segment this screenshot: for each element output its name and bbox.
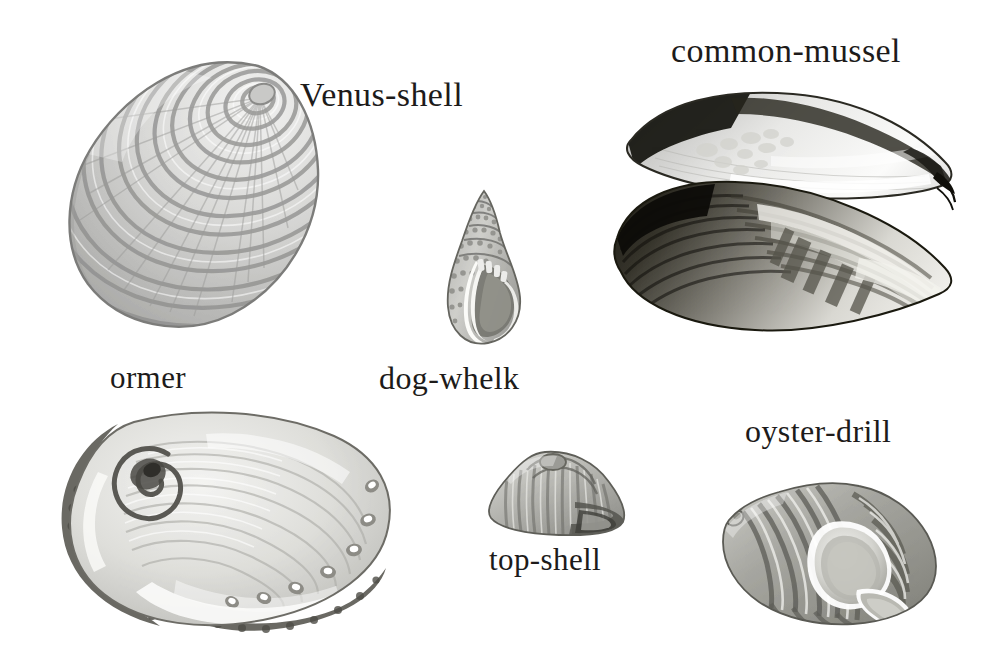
label-top-shell: top-shell	[489, 542, 601, 578]
figure-top-shell	[483, 448, 633, 538]
label-dog-whelk: dog-whelk	[379, 360, 519, 397]
figure-venus-shell	[62, 58, 324, 330]
figure-dog-whelk	[444, 189, 526, 347]
label-ormer: ormer	[110, 360, 186, 396]
label-venus-shell: Venus-shell	[300, 76, 463, 114]
figure-oyster-drill	[713, 468, 945, 636]
figure-common-mussel	[611, 88, 956, 368]
label-common-mussel: common-mussel	[671, 32, 901, 70]
shell-plate: Venus-shell common-mussel ormer dog-whel…	[0, 0, 1004, 666]
figure-ormer	[56, 404, 401, 634]
label-oyster-drill: oyster-drill	[745, 413, 891, 450]
